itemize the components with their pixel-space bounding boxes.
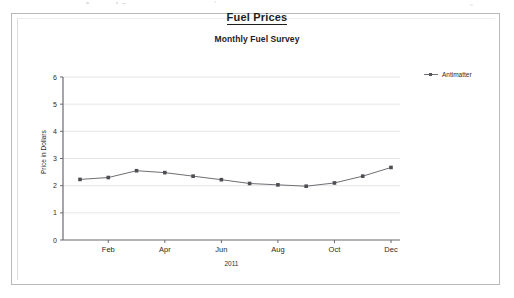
scan-speckle: [470, 4, 473, 6]
y-axis-label-text: Price in Dollars: [40, 160, 47, 174]
chart-subtitle: Monthly Fuel Survey: [0, 34, 514, 44]
scan-speckle: [116, 2, 118, 4]
scan-speckle: [86, 2, 89, 4]
legend-marker-icon: [424, 72, 438, 77]
legend-label-antimatter: Antimatter: [442, 71, 472, 78]
chart-title-text: Fuel Prices: [227, 11, 288, 25]
chart-title: Fuel Prices: [0, 11, 514, 23]
y-axis-label: Price in Dollars: [30, 114, 37, 128]
scan-speckle: [122, 3, 126, 4]
chart-frame-inner-border: [17, 18, 495, 280]
chart-frame: [11, 13, 500, 285]
scan-speckle: [214, 1, 216, 3]
legend: Antimatter: [424, 71, 472, 78]
